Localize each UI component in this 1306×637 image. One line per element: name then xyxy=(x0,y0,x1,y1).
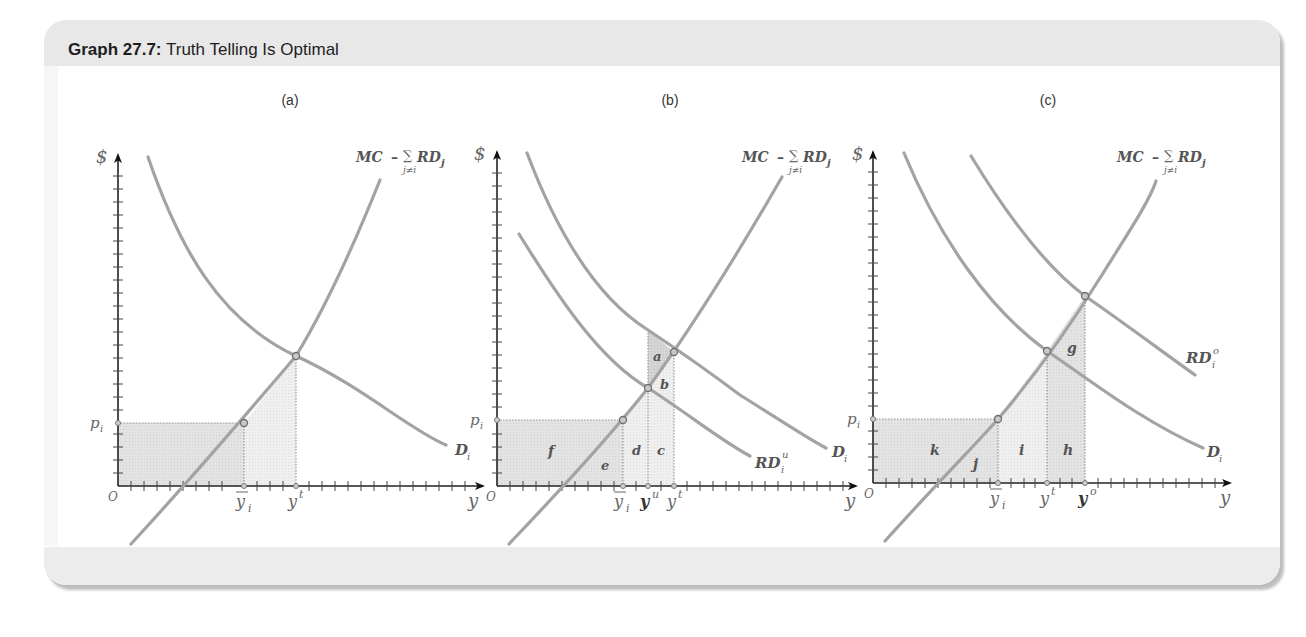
svg-text:MC: MC xyxy=(741,149,769,165)
panel-b-label: (b) xyxy=(661,92,678,108)
area-label-d: d xyxy=(632,443,641,458)
mc-curve-label: MC – ∑ j≠i RD j xyxy=(741,148,831,175)
shaded-area-f xyxy=(497,420,623,486)
svg-text:i: i xyxy=(1212,359,1215,370)
mc-curve xyxy=(131,180,380,544)
rd-o-label: RD o i xyxy=(1185,345,1219,370)
svg-text:RD: RD xyxy=(1177,149,1203,165)
svg-text:D: D xyxy=(1206,443,1220,461)
svg-text:j≠i: j≠i xyxy=(787,165,802,175)
svg-text:y: y xyxy=(1039,489,1050,508)
panel-a: (a) $ O y p i xyxy=(90,92,483,544)
d-i-label: D i xyxy=(1206,443,1222,464)
svg-text:j≠i: j≠i xyxy=(401,165,416,175)
svg-text:MC: MC xyxy=(355,149,383,165)
dollar-axis-label: $ xyxy=(96,146,107,167)
svg-text:MC: MC xyxy=(1116,149,1144,165)
svg-text:t: t xyxy=(299,488,304,501)
svg-text:–: – xyxy=(1152,149,1159,165)
shaded-area-added-surplus xyxy=(244,356,296,486)
point-yu-mc xyxy=(645,385,652,392)
area-label-c: c xyxy=(657,443,665,458)
svg-text:i: i xyxy=(467,451,470,462)
p-i-label: p i xyxy=(90,414,103,434)
p-i-label: p i xyxy=(470,411,483,431)
svg-text:i: i xyxy=(626,502,630,515)
x-axis-label: y xyxy=(467,490,479,511)
demand-curve-d-i xyxy=(527,153,826,448)
svg-text:RD: RD xyxy=(1185,349,1211,367)
svg-text:y: y xyxy=(613,492,624,511)
point-p-axis xyxy=(495,418,500,423)
svg-text:D: D xyxy=(454,441,468,459)
svg-text:i: i xyxy=(248,502,252,515)
rd-u-label: RD u i xyxy=(754,449,788,475)
svg-text:i: i xyxy=(781,464,784,475)
point-ybar-p xyxy=(620,417,627,424)
panel-c: (c) g h i j k xyxy=(847,92,1231,541)
svg-text:o: o xyxy=(1213,345,1219,356)
point-yt-equilibrium xyxy=(1044,348,1051,355)
svg-text:–: – xyxy=(777,149,784,165)
svg-text:y: y xyxy=(235,492,246,511)
svg-text:t: t xyxy=(1051,485,1056,498)
point-ybar-axis xyxy=(242,484,247,489)
svg-text:–: – xyxy=(391,149,398,165)
shaded-area-i xyxy=(998,351,1047,483)
yt-label: y t xyxy=(287,488,304,511)
ybar-i-label: y i xyxy=(613,492,630,515)
svg-text:y: y xyxy=(666,492,677,511)
area-label-g: g xyxy=(1067,340,1077,356)
charts-canvas: (a) $ O y p i xyxy=(0,0,1306,637)
mc-curve xyxy=(885,181,1156,541)
ybar-i-label: y i xyxy=(235,492,252,515)
yt-label: y t xyxy=(666,488,683,511)
point-ybar-p xyxy=(241,420,248,427)
point-equilibrium xyxy=(293,353,300,360)
d-i-label: D i xyxy=(831,443,847,464)
point-ybar-axis xyxy=(996,481,1001,486)
svg-text:y: y xyxy=(989,489,1000,508)
panel-b: (b) a b c d xyxy=(470,92,856,544)
yu-label: y u xyxy=(639,488,659,511)
svg-text:y: y xyxy=(287,492,298,511)
point-yu-axis xyxy=(646,484,651,489)
dollar-axis-label: $ xyxy=(474,143,485,164)
svg-text:y: y xyxy=(1077,489,1089,508)
area-label-h: h xyxy=(1063,442,1073,458)
point-yo-mc xyxy=(1082,293,1089,300)
yo-label: y o xyxy=(1077,485,1097,508)
demand-curve-d-i xyxy=(148,157,446,445)
ybar-i-label: y i xyxy=(989,489,1006,512)
svg-text:RD: RD xyxy=(802,149,828,165)
point-yt-axis xyxy=(294,484,299,489)
svg-text:u: u xyxy=(652,488,659,501)
svg-text:∑: ∑ xyxy=(403,148,413,163)
point-yt-axis xyxy=(1045,481,1050,486)
mc-curve xyxy=(509,177,782,544)
svg-text:i: i xyxy=(480,420,483,431)
x-axis-label: y xyxy=(844,490,856,511)
svg-text:RD: RD xyxy=(754,454,780,472)
panel-a-label: (a) xyxy=(281,92,298,108)
svg-text:p: p xyxy=(90,414,100,432)
svg-text:o: o xyxy=(1090,485,1097,498)
area-label-b: b xyxy=(660,377,669,392)
point-yt-equilibrium xyxy=(671,349,678,356)
area-label-a: a xyxy=(653,349,661,364)
svg-text:RD: RD xyxy=(416,149,442,165)
svg-text:i: i xyxy=(100,423,103,434)
svg-text:D: D xyxy=(831,443,845,461)
shaded-area-consumer-payment xyxy=(118,423,244,486)
origin-label: O xyxy=(486,490,496,504)
svg-text:j≠i: j≠i xyxy=(1162,165,1177,175)
svg-text:y: y xyxy=(639,492,651,511)
origin-label: O xyxy=(864,487,874,501)
point-ybar-axis xyxy=(621,484,626,489)
svg-text:∑: ∑ xyxy=(789,148,799,163)
point-yt-axis xyxy=(672,484,677,489)
point-p-axis xyxy=(871,417,876,422)
point-yo-axis xyxy=(1083,481,1088,486)
svg-text:t: t xyxy=(678,488,683,501)
yt-label: y t xyxy=(1039,485,1056,508)
